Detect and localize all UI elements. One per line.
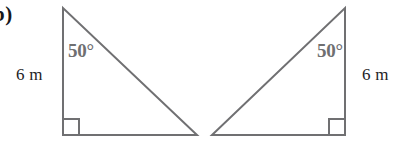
right-triangle-outline	[212, 8, 345, 135]
left-triangle-outline	[63, 8, 197, 135]
left-right-angle-marker	[63, 119, 79, 135]
left-triangle-angle-label: 50°	[68, 41, 94, 60]
left-triangle-side-label: 6 m	[16, 66, 43, 83]
right-triangle-angle-label: 50°	[317, 41, 343, 60]
right-triangle	[212, 8, 345, 135]
triangles-drawing	[0, 0, 407, 168]
right-right-angle-marker	[329, 119, 345, 135]
left-triangle	[63, 8, 197, 135]
part-label: b)	[0, 4, 13, 25]
right-triangle-side-label: 6 m	[362, 66, 389, 83]
geometry-figure: b) 50° 50° 6 m 6 m	[0, 0, 407, 168]
